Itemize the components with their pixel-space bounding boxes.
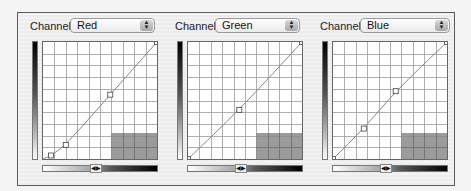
curve-control-point[interactable] (393, 89, 398, 94)
curve-svg (43, 42, 157, 159)
channel-select-blue[interactable]: Blue ▲▼ (360, 18, 450, 33)
updown-arrows-icon: ▲▼ (285, 20, 298, 31)
channel-select-value: Green (222, 19, 253, 31)
input-gradient-bar[interactable]: ◀▶ (187, 165, 303, 172)
curve-control-point[interactable] (237, 107, 242, 112)
output-gradient-bar (177, 41, 183, 160)
channel-select-value: Red (77, 19, 97, 31)
panel-red: Channel: Red ▲▼ ◀▶ (18, 13, 163, 187)
curve-graph-blue[interactable] (332, 41, 448, 160)
curve-control-point[interactable] (155, 42, 158, 45)
curve-svg (333, 42, 447, 159)
gradient-toggle-knob[interactable]: ◀▶ (90, 164, 102, 173)
curves-frame: Channel: Red ▲▼ ◀▶ Channel: Green ▲▼ ◀▶ … (17, 12, 455, 186)
channel-select-value: Blue (367, 19, 389, 31)
curve-graph-red[interactable] (42, 41, 158, 160)
curve-control-point[interactable] (48, 153, 53, 158)
curve-control-point[interactable] (361, 126, 366, 131)
input-gradient-bar[interactable]: ◀▶ (42, 165, 158, 172)
updown-arrows-icon: ▲▼ (435, 20, 448, 31)
curve-svg (188, 42, 302, 159)
gradient-toggle-knob[interactable]: ◀▶ (380, 164, 392, 173)
channel-select-green[interactable]: Green ▲▼ (215, 18, 300, 33)
curve-control-point[interactable] (300, 42, 303, 45)
output-gradient-bar (322, 41, 328, 160)
curve-control-point[interactable] (108, 92, 113, 97)
curve-control-point[interactable] (333, 157, 336, 160)
channel-label: Channel: (30, 20, 74, 32)
channel-select-red[interactable]: Red ▲▼ (70, 18, 155, 33)
gradient-toggle-knob[interactable]: ◀▶ (235, 164, 247, 173)
updown-arrows-icon: ▲▼ (140, 20, 153, 31)
curve-control-point[interactable] (63, 142, 68, 147)
panel-green: Channel: Green ▲▼ ◀▶ (163, 13, 308, 187)
panel-blue: Channel: Blue ▲▼ ◀▶ (308, 13, 453, 187)
channel-label: Channel: (175, 20, 219, 32)
input-gradient-bar[interactable]: ◀▶ (332, 165, 448, 172)
curve-control-point[interactable] (188, 157, 191, 160)
channel-label: Channel: (320, 20, 364, 32)
curve-graph-green[interactable] (187, 41, 303, 160)
curve-control-point[interactable] (445, 42, 448, 45)
output-gradient-bar (32, 41, 38, 160)
